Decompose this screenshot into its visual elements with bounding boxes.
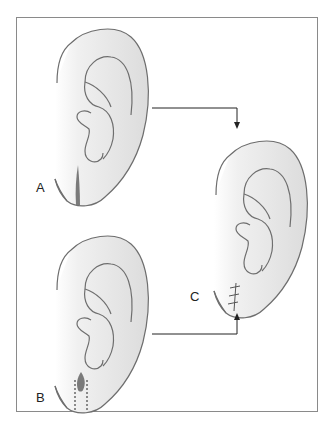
arrow-b-to-c	[152, 313, 240, 334]
ear-a	[55, 29, 148, 206]
panel-label-c: C	[190, 289, 199, 304]
panel-label-b: B	[36, 390, 45, 405]
ear-b	[55, 236, 148, 413]
panel-label-a: A	[36, 180, 45, 195]
ear-c	[214, 141, 307, 318]
ear-diagram	[0, 0, 330, 423]
arrow-a-to-c	[152, 108, 240, 129]
